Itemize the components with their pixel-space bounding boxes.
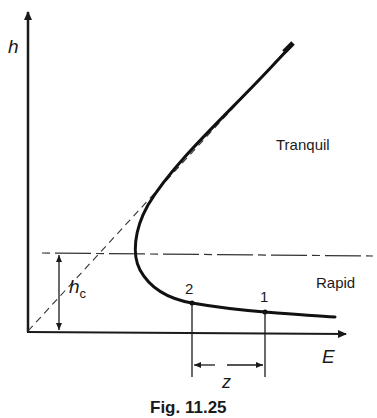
region-label-tranquil: Tranquil	[276, 136, 330, 153]
y-axis-label: h	[8, 36, 19, 58]
z-dimension-label: z	[222, 372, 231, 393]
critical-depth-subscript: c	[80, 286, 87, 301]
curve-end-cap	[284, 43, 293, 52]
specific-energy-curve	[135, 46, 335, 317]
point-1-label: 1	[260, 288, 268, 305]
figure-caption: Fig. 11.25	[150, 398, 227, 418]
critical-depth-line	[42, 253, 373, 256]
critical-depth-symbol: h	[69, 276, 80, 297]
point-2-label: 2	[185, 280, 193, 297]
region-label-rapid: Rapid	[316, 274, 355, 291]
x-axis	[27, 332, 346, 334]
x-axis-label: E	[322, 346, 335, 368]
critical-depth-label: hc	[69, 276, 86, 298]
